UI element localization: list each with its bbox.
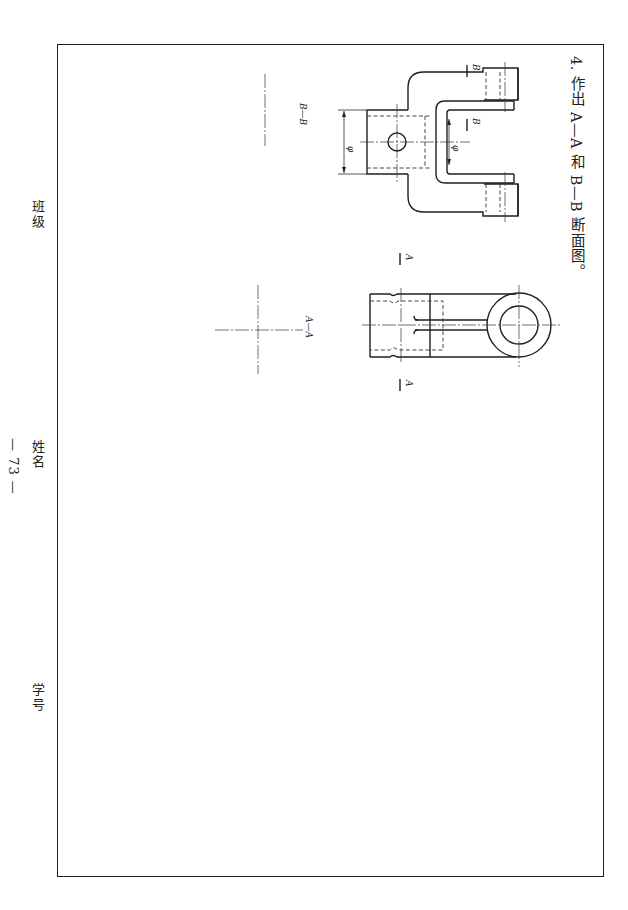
section-mark-b-bottom: B bbox=[471, 117, 481, 125]
section-view-label-aa: A—A bbox=[304, 315, 314, 338]
eye-part-drawing bbox=[362, 253, 560, 391]
dim-phi-outer: φ bbox=[346, 146, 356, 153]
dim-phi-inner: φ bbox=[451, 145, 461, 152]
section-mark-a-bottom: A bbox=[404, 379, 414, 387]
section-view-label-bb: B—B bbox=[298, 102, 308, 126]
technical-drawing: φ φ B B B—B bbox=[0, 0, 628, 910]
fork-part-drawing bbox=[338, 62, 518, 222]
section-mark-b-top: B bbox=[471, 63, 481, 71]
worksheet-page: 4. 作出 A—A 和 B—B 断面图。 班级 姓名 — 73 — 学号 bbox=[0, 0, 628, 910]
section-mark-a-top: A bbox=[404, 253, 414, 261]
